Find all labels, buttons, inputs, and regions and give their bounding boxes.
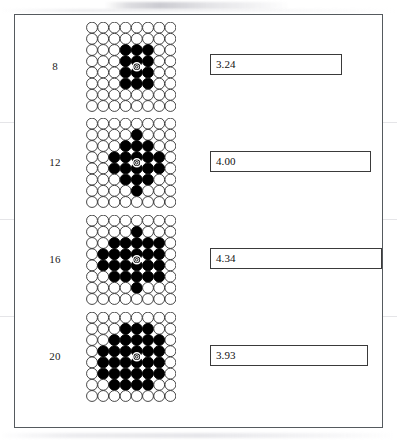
coordination-number-label: 12: [28, 156, 82, 168]
value-label: 4.00: [216, 155, 236, 167]
lattice-diagram: [86, 215, 176, 307]
value-bar: 4.00: [210, 151, 371, 172]
coordination-row: 12 4.00: [14, 118, 383, 214]
lattice-diagram: [86, 22, 176, 114]
coordination-number-label: 16: [28, 253, 82, 265]
coordination-row: 16 4.34: [14, 215, 383, 311]
scan-artifact-bottom: [0, 433, 397, 438]
value-bar: 3.24: [210, 54, 342, 75]
lattice-diagram: [86, 118, 176, 210]
value-label: 3.24: [216, 58, 236, 70]
scan-artifact-top-line: [0, 9, 397, 12]
value-bar: 4.34: [210, 248, 382, 269]
scan-artifact-top: [105, 2, 290, 9]
coordination-row: 20 3.93: [14, 312, 383, 408]
coordination-row: 8 3.24: [14, 22, 383, 118]
value-label: 3.93: [216, 349, 236, 361]
value-label: 4.34: [216, 252, 236, 264]
value-bar: 3.93: [210, 345, 368, 366]
coordination-rows: 8 3.24 12 4.00 16 4.34 20 3.93: [14, 14, 383, 428]
coordination-number-label: 8: [28, 60, 82, 72]
coordination-number-label: 20: [28, 350, 82, 362]
lattice-diagram: [86, 312, 176, 404]
